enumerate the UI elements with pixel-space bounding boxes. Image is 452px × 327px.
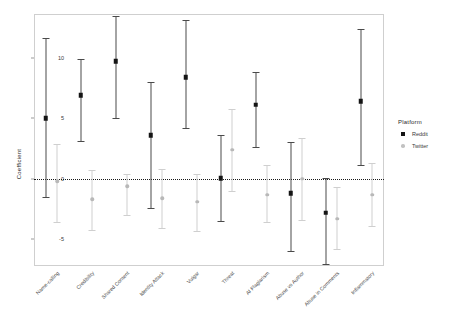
data-point-twitter[interactable] <box>371 193 375 197</box>
legend-marker-twitter-icon <box>398 142 408 150</box>
error-bar-group <box>226 14 238 266</box>
error-bar-group <box>75 14 87 266</box>
data-point-reddit[interactable] <box>358 99 363 104</box>
confidence-interval-cap <box>124 215 131 216</box>
data-point-twitter[interactable] <box>196 200 200 204</box>
confidence-interval-cap <box>357 29 364 30</box>
data-point-twitter[interactable] <box>231 148 235 152</box>
confidence-interval-bar <box>115 16 116 118</box>
confidence-interval-cap <box>89 230 96 231</box>
confidence-interval-cap <box>42 38 49 39</box>
data-point-twitter[interactable] <box>266 193 270 197</box>
error-bar-group <box>191 14 203 266</box>
confidence-interval-cap <box>147 208 154 209</box>
confidence-interval-cap <box>124 174 131 175</box>
confidence-interval-bar <box>255 72 256 147</box>
data-point-twitter[interactable] <box>91 198 95 202</box>
confidence-interval-cap <box>299 220 306 221</box>
error-bar-group <box>320 14 332 266</box>
error-bar-group <box>296 14 308 266</box>
error-bar-group <box>355 14 367 266</box>
confidence-interval-cap <box>77 59 84 60</box>
confidence-interval-cap <box>42 197 49 198</box>
confidence-interval-cap <box>112 16 119 17</box>
error-bar-group <box>110 14 122 266</box>
confidence-interval-cap <box>334 249 341 250</box>
error-bar-group <box>40 14 52 266</box>
confidence-interval-cap <box>54 222 61 223</box>
confidence-interval-cap <box>252 147 259 148</box>
confidence-interval-cap <box>229 191 236 192</box>
data-point-reddit[interactable] <box>253 103 258 108</box>
confidence-interval-cap <box>357 165 364 166</box>
error-bar-group <box>366 14 378 266</box>
confidence-interval-cap <box>264 222 271 223</box>
confidence-interval-cap <box>334 187 341 188</box>
data-point-twitter[interactable] <box>301 177 305 181</box>
error-bar-group <box>156 14 168 266</box>
legend-label-reddit: Reddit <box>412 131 428 137</box>
data-point-twitter[interactable] <box>56 179 60 183</box>
error-bar-group <box>86 14 98 266</box>
error-bar-group <box>285 14 297 266</box>
confidence-interval-cap <box>194 174 201 175</box>
data-point-twitter[interactable] <box>126 184 130 188</box>
error-bar-group <box>261 14 273 266</box>
error-bar-group <box>250 14 262 266</box>
error-bar-group <box>180 14 192 266</box>
data-point-reddit[interactable] <box>218 176 223 181</box>
confidence-interval-bar <box>80 59 81 141</box>
confidence-interval-bar <box>150 82 151 208</box>
confidence-interval-bar <box>360 29 361 166</box>
confidence-interval-cap <box>229 109 236 110</box>
legend-marker-reddit-icon <box>398 130 408 138</box>
confidence-interval-cap <box>217 135 224 136</box>
y-axis-title: Coefficient <box>16 148 22 178</box>
error-bar-group <box>331 14 343 266</box>
x-tick-label: Threat <box>220 270 235 285</box>
confidence-interval-cap <box>54 144 61 145</box>
confidence-interval-cap <box>287 142 294 143</box>
confidence-interval-cap <box>194 231 201 232</box>
x-tick-label: Credibility <box>74 270 94 290</box>
data-point-reddit[interactable] <box>148 133 153 138</box>
data-point-reddit[interactable] <box>323 210 328 215</box>
error-bar-group <box>51 14 63 266</box>
data-point-reddit[interactable] <box>113 59 118 64</box>
confidence-interval-cap <box>322 264 329 265</box>
data-point-reddit[interactable] <box>288 191 293 196</box>
data-point-reddit[interactable] <box>183 75 188 80</box>
x-tick-label: AI Plagiarism <box>244 270 270 296</box>
legend-title: Platform <box>398 119 450 125</box>
confidence-interval-bar <box>127 174 128 215</box>
confidence-interval-cap <box>159 169 166 170</box>
legend-item-reddit[interactable]: Reddit <box>398 130 450 138</box>
data-point-reddit[interactable] <box>78 93 83 98</box>
confidence-interval-cap <box>287 251 294 252</box>
confidence-interval-cap <box>77 141 84 142</box>
coefficient-plot: Coefficient 1050-5 Name-callingCredibili… <box>0 0 452 327</box>
x-tick-label: Abuse vs Author <box>274 270 305 301</box>
x-tick-label: Identity Attack <box>138 270 165 297</box>
confidence-interval-cap <box>322 178 329 179</box>
data-point-reddit[interactable] <box>43 116 48 121</box>
confidence-interval-bar <box>57 144 58 223</box>
x-tick-label: Vulgar <box>185 270 200 285</box>
x-tick-label: Inflammatory <box>349 270 374 295</box>
data-point-twitter[interactable] <box>161 196 165 200</box>
legend-item-twitter[interactable]: Twitter <box>398 142 450 150</box>
data-point-twitter[interactable] <box>336 217 340 221</box>
confidence-interval-bar <box>290 142 291 251</box>
error-bar-group <box>215 14 227 266</box>
x-tick-label: Abuse in Comments <box>302 270 339 307</box>
error-bar-group <box>121 14 133 266</box>
x-tick-label: Name-calling <box>34 270 60 296</box>
confidence-interval-cap <box>112 118 119 119</box>
confidence-interval-bar <box>325 178 326 264</box>
confidence-interval-cap <box>252 72 259 73</box>
confidence-interval-cap <box>299 138 306 139</box>
confidence-interval-cap <box>369 226 376 227</box>
confidence-interval-cap <box>264 165 271 166</box>
plot-area <box>34 14 384 266</box>
confidence-interval-cap <box>89 170 96 171</box>
